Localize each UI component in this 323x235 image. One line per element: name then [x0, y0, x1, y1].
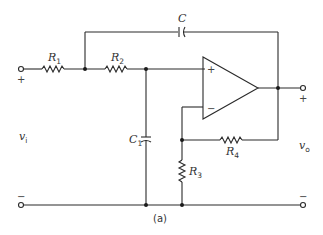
junction-dot — [144, 203, 148, 207]
output-minus-sign: − — [299, 191, 307, 202]
output-terminal-top — [301, 86, 306, 91]
capacitor-c1-branch — [141, 69, 151, 205]
junction-dot — [83, 67, 87, 71]
output-terminal-bottom — [301, 203, 306, 208]
input-minus-sign: − — [17, 191, 25, 202]
resistor-r1 — [42, 66, 64, 72]
resistor-r4 — [220, 137, 242, 143]
label-c: C — [178, 12, 187, 25]
input-top-wire — [23, 66, 205, 72]
junction-dot — [180, 138, 184, 142]
junction-dot — [144, 67, 148, 71]
junction-dot — [276, 86, 280, 90]
label-r3: R3 — [188, 165, 202, 180]
junction-dot — [180, 203, 184, 207]
label-r4: R4 — [225, 145, 239, 160]
circuit-diagram: R1 R2 C C1 R3 R4 + − + − vi + − vo (a) — [0, 0, 323, 235]
label-vi: vi — [19, 130, 27, 145]
label-vo: vo — [299, 139, 310, 154]
input-terminal-top — [19, 67, 24, 72]
label-r2: R2 — [110, 51, 124, 66]
opamp-minus: − — [207, 103, 215, 114]
label-c1: C1 — [129, 133, 142, 148]
resistor-r3 — [179, 160, 185, 182]
input-plus-sign: + — [17, 74, 25, 85]
input-terminal-bottom — [19, 203, 24, 208]
figure-caption: (a) — [153, 213, 167, 224]
label-r1: R1 — [47, 51, 61, 66]
opamp-plus: + — [207, 64, 215, 75]
resistor-r2 — [105, 66, 127, 72]
output-plus-sign: + — [299, 93, 307, 104]
